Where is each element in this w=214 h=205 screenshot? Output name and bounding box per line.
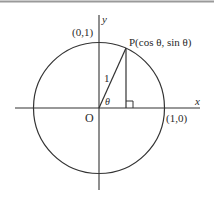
point-p-label: P(cos θ, sin θ)	[129, 36, 192, 49]
right-angle-marker	[126, 101, 133, 108]
radius-label: 1	[104, 72, 110, 84]
x-axis-label: x	[194, 95, 200, 107]
angle-theta-label: θ	[105, 96, 110, 107]
point-0-1-label: (0,1)	[72, 26, 93, 39]
diagram-canvas: y x (0,1) (1,0) O P(cos θ, sin θ) 1 θ	[0, 0, 214, 205]
point-1-0-label: (1,0)	[166, 112, 187, 125]
unit-circle-diagram: y x (0,1) (1,0) O P(cos θ, sin θ) 1 θ	[0, 0, 214, 205]
origin-label: O	[85, 111, 94, 125]
y-axis-label: y	[101, 13, 107, 25]
